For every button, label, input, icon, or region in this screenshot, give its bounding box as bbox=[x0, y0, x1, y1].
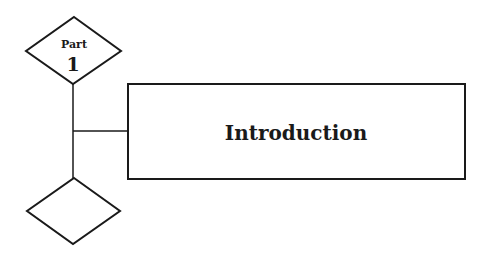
diagram-canvas: Part 1 Introduction bbox=[0, 0, 489, 266]
bottom-diamond bbox=[27, 178, 120, 244]
title-text: Introduction bbox=[225, 121, 368, 145]
part-number: 1 bbox=[66, 53, 79, 75]
part-label: Part bbox=[61, 38, 88, 51]
